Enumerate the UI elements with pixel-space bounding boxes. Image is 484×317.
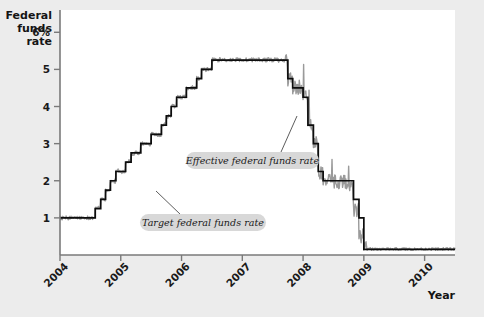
federal-funds-rate-chart: Federal funds rate 123456% 2004200520062… [0, 0, 484, 317]
x-axis-ticks: 2004200520062007200820092010 [41, 255, 435, 289]
x-tick-label: 2010 [406, 260, 435, 289]
x-tick-label: 2005 [102, 260, 131, 289]
x-tick-label: 2009 [345, 260, 374, 289]
y-tick-label: 2 [43, 175, 50, 187]
y-tick-label: 5 [43, 63, 50, 75]
y-axis-title-line-1: Federal [6, 9, 52, 22]
x-tick-label: 2004 [41, 260, 70, 289]
y-tick-label: 4 [43, 101, 50, 113]
effective-rate-callout-label: Effective federal funds rate [185, 155, 320, 166]
target-rate-callout-label: Target federal funds rate [142, 217, 264, 228]
y-axis-ticks: 123456% [32, 26, 60, 224]
y-tick-label: 6% [32, 26, 50, 38]
y-tick-label: 3 [43, 138, 50, 150]
x-tick-label: 2006 [163, 260, 192, 289]
x-tick-label: 2007 [224, 260, 253, 289]
y-tick-label: 1 [43, 212, 50, 224]
x-tick-label: 2008 [284, 260, 313, 289]
x-axis-title: Year [427, 289, 456, 302]
